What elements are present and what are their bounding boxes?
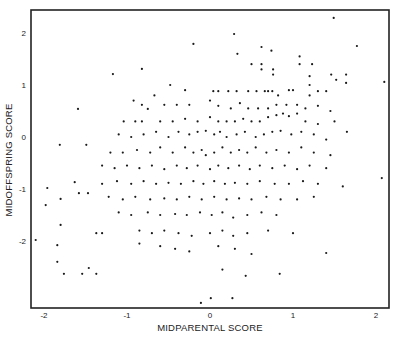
data-point [130,214,132,216]
data-point [255,146,257,148]
data-point [101,165,103,167]
data-point [95,232,97,234]
data-point [201,198,203,200]
data-point [292,232,294,234]
data-point [130,183,132,185]
data-point [114,167,116,169]
data-point [213,196,215,198]
data-point [221,146,223,148]
data-point [138,230,140,232]
data-point [155,131,157,133]
data-point [192,43,194,45]
data-point [163,168,165,170]
data-point [221,269,223,271]
data-point [265,152,267,154]
data-point [188,196,190,198]
data-point [221,211,223,213]
data-point [176,198,178,200]
data-point [238,149,240,151]
data-point [141,120,143,122]
data-point [101,232,103,234]
data-point [213,152,215,154]
data-point [236,133,238,135]
data-point [217,105,219,107]
data-point [130,136,132,138]
data-point [296,168,298,170]
data-point [272,68,274,70]
data-point [304,120,306,122]
data-point [232,217,234,219]
data-point [186,167,188,169]
data-point [209,168,211,170]
data-point [143,133,145,135]
data-points [35,17,386,304]
data-point [163,104,165,106]
data-point [174,248,176,250]
data-point [46,187,48,189]
data-point [123,120,125,122]
data-point [159,245,161,247]
data-point [122,198,124,200]
data-point [118,211,120,213]
data-point [309,165,311,167]
data-point [177,232,179,234]
data-point [172,152,174,154]
data-point [213,133,215,135]
data-point [226,136,228,138]
data-point [249,168,251,170]
data-point [271,90,273,92]
data-point [184,118,186,120]
data-point [188,104,190,106]
data-point [108,196,110,198]
data-point [247,90,249,92]
data-point [280,130,282,132]
data-point [333,17,335,19]
data-point [112,73,114,75]
data-point [280,198,282,200]
data-point [149,152,151,154]
data-point [219,131,221,133]
data-point [296,113,298,115]
data-point [147,108,149,110]
data-point [330,74,332,76]
data-point [317,123,319,125]
data-point [267,107,269,109]
data-point [244,131,246,133]
data-point [309,75,311,77]
data-point [299,55,301,57]
data-point [264,90,266,92]
data-point [233,33,235,35]
data-point [147,211,149,213]
data-point [345,82,347,84]
data-point [282,113,284,115]
data-point [188,133,190,135]
data-point [271,167,273,169]
data-point [35,239,37,241]
data-point [217,120,219,122]
data-point [45,204,47,206]
data-point [159,146,161,148]
data-point [77,108,79,110]
data-point [234,182,236,184]
data-point [167,182,169,184]
data-point [134,196,136,198]
data-point [151,165,153,167]
data-point [197,120,199,122]
data-point [138,243,140,245]
data-point [259,120,261,122]
data-point [267,116,269,118]
data-point [242,118,244,120]
data-point [346,131,348,133]
data-point [313,152,315,154]
x-axis-title: MIDPARENTAL SCORE [157,322,263,333]
data-point [149,198,151,200]
data-point [200,302,202,304]
data-point [272,74,274,76]
data-point [192,180,194,182]
data-point [60,198,62,200]
data-point [230,152,232,154]
data-point [288,89,290,91]
data-point [275,104,277,106]
data-point [277,94,279,96]
data-point [85,144,87,146]
